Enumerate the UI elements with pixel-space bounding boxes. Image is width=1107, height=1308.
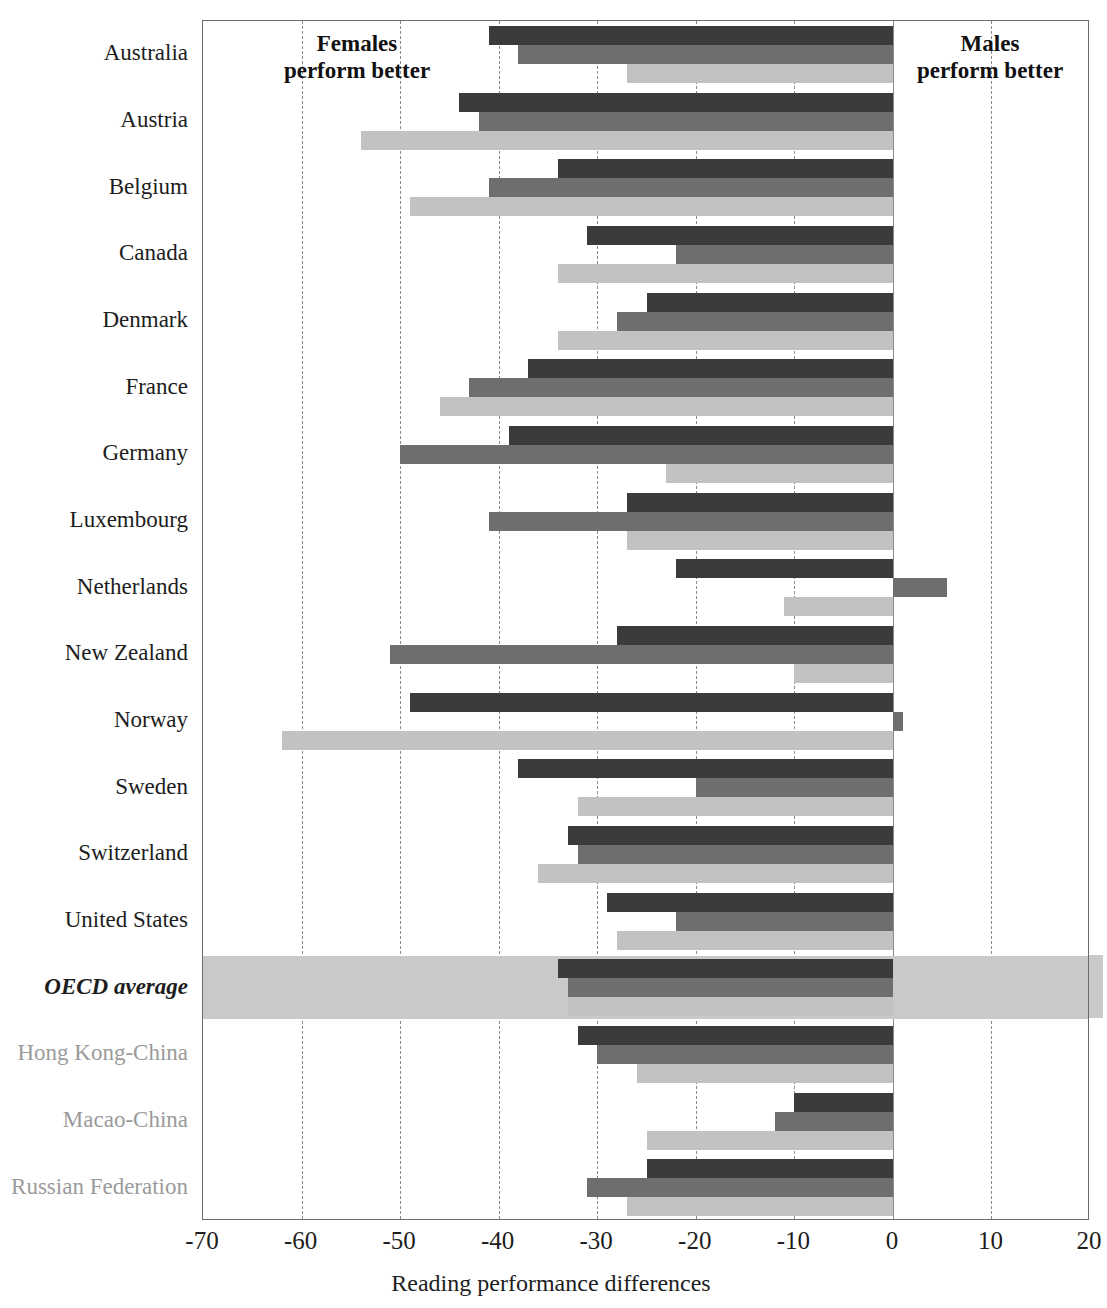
bar-luxembourg-series-3: [627, 531, 893, 550]
category-label-text: Germany: [102, 441, 188, 464]
bar-belgium-series-3: [410, 197, 893, 216]
bar-australia-series-2: [518, 45, 893, 64]
gridline-0: [893, 21, 894, 1219]
x-tick-label-0: 0: [852, 1228, 932, 1253]
bar-russian-federation-series-2: [587, 1178, 893, 1197]
bar-australia-series-1: [489, 26, 893, 45]
bar-new-zealand-series-2: [390, 645, 893, 664]
gridline--60: [302, 21, 303, 1219]
bar-australia-series-3: [627, 64, 893, 83]
gridline--50: [400, 21, 401, 1219]
bar-sweden-series-2: [696, 778, 893, 797]
bar-hong-kong-china-series-3: [637, 1064, 893, 1083]
category-label-text: New Zealand: [65, 641, 188, 664]
annotation-males-perform-better: Males perform better: [890, 30, 1090, 84]
x-tick-label--40: -40: [458, 1228, 538, 1253]
bar-norway-series-3: [282, 731, 893, 750]
category-label-text: Canada: [119, 241, 188, 264]
category-label-text: Australia: [104, 41, 188, 64]
x-tick-label--20: -20: [655, 1228, 735, 1253]
bar-austria-series-2: [479, 112, 893, 131]
bar-austria-series-1: [459, 93, 893, 112]
x-tick-label--70: -70: [162, 1228, 242, 1253]
bar-netherlands-series-2: [893, 578, 947, 597]
category-label-text: Hong Kong-China: [17, 1041, 188, 1064]
category-label-text: Switzerland: [78, 841, 188, 864]
x-axis-title: Reading performance differences: [0, 1270, 1102, 1297]
annotation-males-line1: Males: [890, 30, 1090, 57]
annotation-males-line2: perform better: [890, 57, 1090, 84]
bar-germany-series-3: [666, 464, 893, 483]
bar-united-states-series-3: [617, 931, 893, 950]
category-label-text: Macao-China: [63, 1108, 188, 1131]
bar-sweden-series-1: [518, 759, 893, 778]
bar-oecd-average-series-3: [568, 997, 893, 1016]
category-label-text: Austria: [120, 108, 188, 131]
annotation-females-perform-better: Females perform better: [232, 30, 482, 84]
bar-macao-china-series-1: [794, 1093, 893, 1112]
bar-canada-series-2: [676, 245, 893, 264]
category-label-text: Denmark: [102, 308, 188, 331]
bar-sweden-series-3: [578, 797, 893, 816]
bar-hong-kong-china-series-2: [597, 1045, 893, 1064]
bar-france-series-2: [469, 378, 893, 397]
x-tick-label-10: 10: [950, 1228, 1030, 1253]
bar-oecd-average-series-1: [558, 959, 893, 978]
x-tick-label--50: -50: [359, 1228, 439, 1253]
bar-germany-series-1: [509, 426, 893, 445]
bar-canada-series-1: [587, 226, 893, 245]
category-label-text: OECD average: [44, 975, 188, 998]
bar-norway-series-1: [410, 693, 893, 712]
bar-switzerland-series-1: [568, 826, 893, 845]
x-tick-label-20: 20: [1049, 1228, 1107, 1253]
bar-united-states-series-1: [607, 893, 893, 912]
bar-new-zealand-series-1: [617, 626, 893, 645]
bar-hong-kong-china-series-1: [578, 1026, 893, 1045]
bar-netherlands-series-3: [784, 597, 892, 616]
bar-denmark-series-3: [558, 331, 893, 350]
bar-new-zealand-series-3: [794, 664, 893, 683]
bar-russian-federation-series-1: [647, 1159, 893, 1178]
bar-switzerland-series-2: [578, 845, 893, 864]
category-label-text: Netherlands: [77, 575, 188, 598]
bar-macao-china-series-2: [775, 1112, 893, 1131]
bar-russian-federation-series-3: [627, 1197, 893, 1216]
bar-netherlands-series-1: [676, 559, 893, 578]
bar-luxembourg-series-2: [489, 512, 893, 531]
category-label-text: Norway: [114, 708, 188, 731]
category-label-text: France: [125, 375, 188, 398]
x-tick-label--10: -10: [753, 1228, 833, 1253]
annotation-females-line1: Females: [232, 30, 482, 57]
bar-canada-series-3: [558, 264, 893, 283]
category-label-text: United States: [65, 908, 188, 931]
bar-germany-series-2: [400, 445, 893, 464]
bar-luxembourg-series-1: [627, 493, 893, 512]
category-label-text: Sweden: [115, 775, 188, 798]
bar-switzerland-series-3: [538, 864, 893, 883]
x-tick-label--30: -30: [556, 1228, 636, 1253]
bar-france-series-1: [528, 359, 893, 378]
gridline-10: [991, 21, 992, 1219]
category-label-text: Russian Federation: [11, 1175, 188, 1198]
bar-austria-series-3: [361, 131, 893, 150]
bar-united-states-series-2: [676, 912, 893, 931]
category-label-text: Belgium: [109, 175, 188, 198]
bar-denmark-series-2: [617, 312, 893, 331]
bar-oecd-average-series-2: [568, 978, 893, 997]
annotation-females-line2: perform better: [232, 57, 482, 84]
bar-norway-series-2: [893, 712, 903, 731]
bar-france-series-3: [440, 397, 893, 416]
bar-belgium-series-1: [558, 159, 893, 178]
bar-macao-china-series-3: [647, 1131, 893, 1150]
category-label-text: Luxembourg: [70, 508, 188, 531]
oecd-highlight-band-extension: [1089, 955, 1103, 1018]
bar-belgium-series-2: [489, 178, 893, 197]
x-tick-label--60: -60: [261, 1228, 341, 1253]
plot-area: [202, 20, 1089, 1220]
bar-denmark-series-1: [647, 293, 893, 312]
